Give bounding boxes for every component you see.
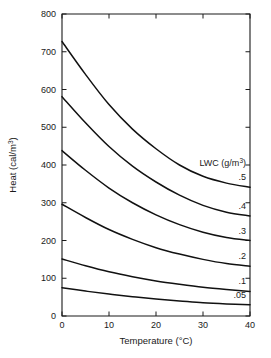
series-label-p05: .05	[233, 290, 246, 300]
series-label-p5: .5	[238, 172, 246, 182]
data-curves	[62, 42, 250, 305]
y-tick-label: 300	[41, 198, 56, 208]
series-label-p3: .3	[238, 226, 246, 236]
y-tick-label: 400	[41, 160, 56, 170]
y-axis-title: Heat (cal/m3)	[7, 137, 18, 192]
chart-container: 0100200300400500600700800 010203040 .5.4…	[0, 0, 271, 358]
curve-lwc-p1	[62, 259, 250, 291]
series-label-p4: .4	[238, 201, 246, 211]
series-end-labels: .5.4.3.2.1.05	[233, 172, 246, 299]
legend-title: LWC (g/m3)	[200, 157, 246, 168]
x-axis-tick-labels: 010203040	[59, 320, 255, 330]
series-label-p1: .1	[238, 276, 246, 286]
y-tick-label: 500	[41, 122, 56, 132]
y-tick-label: 600	[41, 85, 56, 95]
x-tick-label: 20	[151, 320, 161, 330]
y-tick-label: 100	[41, 273, 56, 283]
x-tick-label: 30	[198, 320, 208, 330]
x-axis-title: Temperature (°C)	[120, 335, 193, 346]
curve-lwc-p2	[62, 204, 250, 266]
curve-lwc-p05	[62, 288, 250, 305]
y-tick-label: 800	[41, 9, 56, 19]
y-tick-label: 0	[51, 311, 56, 321]
series-label-p2: .2	[238, 251, 246, 261]
x-tick-label: 10	[104, 320, 114, 330]
y-tick-label: 700	[41, 47, 56, 57]
y-tick-label: 200	[41, 236, 56, 246]
x-tick-label: 40	[245, 320, 255, 330]
y-axis-tick-labels: 0100200300400500600700800	[41, 9, 56, 321]
x-tick-label: 0	[59, 320, 64, 330]
heat-vs-temperature-chart: 0100200300400500600700800 010203040 .5.4…	[0, 0, 271, 358]
curve-lwc-p4	[62, 97, 250, 216]
